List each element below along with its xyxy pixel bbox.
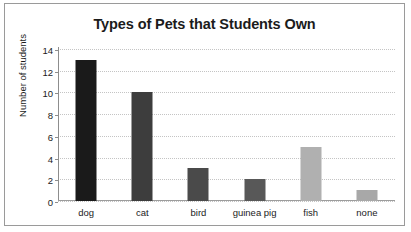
bar-slot: none xyxy=(339,49,395,201)
y-tick-label: 12 xyxy=(42,66,53,77)
plot-area: 14121086420 dogcatbirdguinea pigfishnone xyxy=(58,49,395,201)
x-tick-label-none: none xyxy=(356,207,377,218)
chart-title: Types of Pets that Students Own xyxy=(5,16,404,32)
bar-none[interactable] xyxy=(356,190,377,201)
x-tick-label-cat: cat xyxy=(136,207,149,218)
bar-slot: guinea pig xyxy=(227,49,283,201)
x-tick-label-fish: fish xyxy=(303,207,318,218)
y-tick-label: 10 xyxy=(42,88,53,99)
bar-dog[interactable] xyxy=(76,60,97,201)
y-tick-label: 4 xyxy=(48,153,53,164)
bar-bird[interactable] xyxy=(188,168,209,201)
y-axis-title: Number of students xyxy=(17,11,28,141)
bar-slot: cat xyxy=(114,49,170,201)
bar-cat[interactable] xyxy=(132,92,153,201)
y-tick-mark xyxy=(55,202,58,203)
bar-guinea-pig[interactable] xyxy=(244,179,265,201)
chart-frame: Types of Pets that Students Own Number o… xyxy=(4,3,405,226)
x-tick-label-dog: dog xyxy=(78,207,94,218)
bars-group: dogcatbirdguinea pigfishnone xyxy=(58,49,395,201)
bar-fish[interactable] xyxy=(300,147,321,201)
x-tick-label-bird: bird xyxy=(190,207,206,218)
bar-slot: bird xyxy=(170,49,226,201)
y-tick-label: 8 xyxy=(48,110,53,121)
y-tick-label: 0 xyxy=(48,197,53,208)
x-tick-label-guinea-pig: guinea pig xyxy=(233,207,277,218)
y-tick-label: 6 xyxy=(48,131,53,142)
y-tick-label: 14 xyxy=(42,45,53,56)
bar-slot: fish xyxy=(283,49,339,201)
gridline: 0 xyxy=(58,201,395,202)
bar-slot: dog xyxy=(58,49,114,201)
y-tick-label: 2 xyxy=(48,175,53,186)
